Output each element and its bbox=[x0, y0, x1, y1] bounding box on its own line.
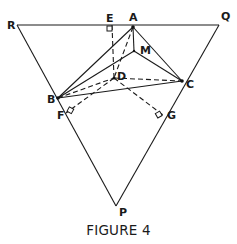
label-g: G bbox=[167, 109, 176, 122]
label-c: C bbox=[186, 78, 194, 91]
label-r: R bbox=[7, 19, 16, 32]
right-angle-g-icon bbox=[155, 111, 162, 118]
label-b: B bbox=[47, 93, 55, 106]
segment-rp bbox=[17, 25, 116, 206]
point-c bbox=[180, 79, 184, 83]
point-b bbox=[56, 96, 60, 100]
segment-am bbox=[133, 27, 134, 51]
point-m bbox=[133, 50, 135, 52]
geometry-figure: R Q P A E M D B C F G bbox=[0, 0, 237, 244]
segment-dg bbox=[114, 78, 163, 115]
label-m: M bbox=[140, 44, 151, 57]
point-a bbox=[131, 25, 135, 29]
label-d: D bbox=[117, 70, 126, 83]
figure-caption: FIGURE 4 bbox=[0, 222, 237, 238]
point-d bbox=[113, 77, 116, 80]
label-p: P bbox=[119, 206, 127, 219]
segment-bc bbox=[58, 81, 182, 98]
segment-ed bbox=[112, 25, 114, 78]
label-f: F bbox=[57, 109, 65, 122]
right-angle-e-icon bbox=[107, 26, 112, 31]
label-q: Q bbox=[221, 10, 230, 23]
outer-triangle-rqp bbox=[17, 25, 219, 206]
solid-edges bbox=[58, 27, 182, 98]
point-labels: R Q P A E M D B C F G bbox=[7, 10, 230, 219]
segment-ab bbox=[58, 27, 133, 98]
label-e: E bbox=[106, 12, 114, 25]
label-a: A bbox=[129, 11, 138, 24]
